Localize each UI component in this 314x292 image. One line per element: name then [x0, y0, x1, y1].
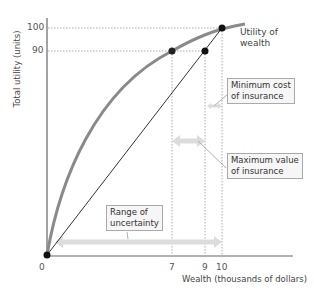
- max-value-line2: of insurance: [231, 166, 299, 177]
- x-axis-label: Wealth (thousands of dollars): [182, 274, 307, 285]
- maximum-value-annotation: Maximum value of insurance: [227, 153, 303, 179]
- min-cost-line2: of insurance: [231, 91, 291, 102]
- range-line1: Range of: [110, 207, 159, 218]
- minimum-cost-annotation: Minimum cost of insurance: [227, 78, 295, 104]
- x-tick-10: 10: [216, 262, 227, 272]
- min-cost-line1: Minimum cost: [231, 80, 291, 91]
- curve-label-line2: wealth: [240, 38, 278, 49]
- max-value-line1: Maximum value: [231, 155, 299, 166]
- y-tick-100: 100: [27, 22, 44, 32]
- range-line2: uncertainty: [110, 218, 159, 229]
- curve-label: Utility of wealth: [240, 27, 278, 49]
- x-tick-0: 0: [39, 262, 45, 272]
- min-cost-leader: [214, 94, 228, 106]
- y-axis-label: Total utility (units): [12, 24, 22, 114]
- curve-label-line1: Utility of: [240, 27, 278, 38]
- x-tick-9: 9: [202, 262, 208, 272]
- range-of-uncertainty-arrow: [55, 236, 222, 248]
- point-9-90: [202, 48, 209, 55]
- x-tick-7: 7: [169, 262, 175, 272]
- point-origin: [44, 252, 51, 259]
- point-10-100: [219, 25, 226, 32]
- range-leader: [127, 232, 128, 239]
- range-of-uncertainty-annotation: Range of uncertainty: [106, 205, 163, 231]
- point-7-90: [169, 48, 176, 55]
- y-tick-90: 90: [32, 45, 43, 55]
- maximum-value-arrow: [172, 135, 205, 147]
